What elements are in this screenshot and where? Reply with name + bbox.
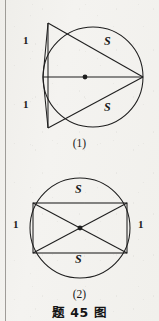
figure-2-label-unit-left: 1: [13, 219, 19, 230]
page-gutter-rule: [5, 0, 6, 321]
figure-1-chord-upper-right: [48, 23, 143, 77]
figure-2-label-area-lower: S: [75, 253, 82, 265]
figure-1-number: (1): [0, 138, 159, 150]
figure-2-center-dot: [78, 226, 83, 231]
scan-grain-overlay: [0, 0, 159, 321]
figure-page: 1 1 S S (1) 1 1 S S (2) 题 45 图: [0, 0, 159, 321]
geometry-figures-svg: [0, 0, 159, 321]
figure-1-center-dot: [83, 75, 88, 80]
figure-2-inscribed-rectangle: [33, 203, 127, 253]
figure-1-circle: [43, 27, 143, 127]
figure-2-number: (2): [0, 289, 159, 301]
figure-caption: 题 45 图: [0, 302, 159, 321]
figure-2-label-unit-right: 1: [138, 219, 144, 230]
figure-1-unit-side-upper: [43, 23, 48, 77]
figure-1-unit-side-lower: [43, 77, 48, 128]
figure-1-label-area-lower: S: [104, 101, 111, 113]
figure-1-label-unit-upper: 1: [23, 35, 29, 46]
figure-1-label-area-upper: S: [104, 35, 111, 47]
figure-2-diagonal-a: [33, 203, 127, 253]
figure-1-chord-lower-right: [48, 77, 143, 128]
figure-1-label-unit-lower: 1: [23, 99, 29, 110]
figure-2-diagonal-b: [33, 203, 127, 253]
figure-1-graphic: [43, 23, 143, 128]
figure-2-label-area-upper: S: [75, 183, 82, 195]
